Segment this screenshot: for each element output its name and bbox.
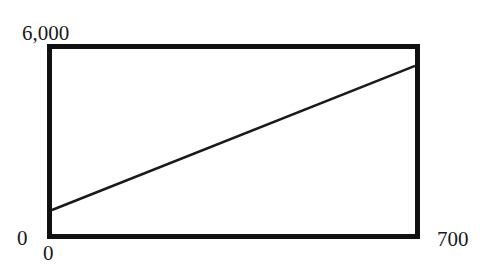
chart-plot-area: [0, 0, 487, 269]
y-axis-min-label: 0: [17, 228, 28, 249]
data-line: [52, 66, 415, 210]
x-axis-max-label: 700: [437, 229, 469, 250]
y-axis-max-label: 6,000: [22, 23, 69, 44]
plot-frame: [50, 47, 418, 237]
x-axis-min-label: 0: [43, 243, 54, 264]
